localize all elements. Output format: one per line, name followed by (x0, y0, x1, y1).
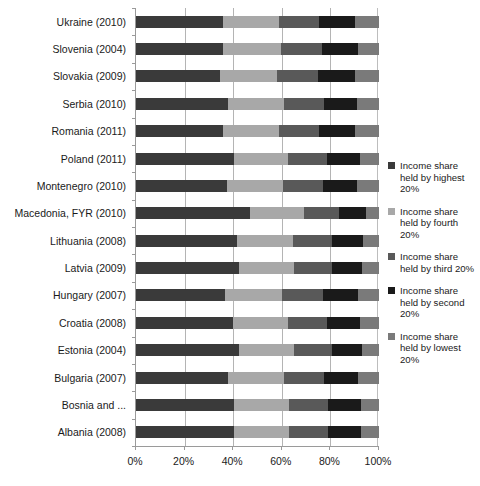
bar-segment (234, 426, 289, 438)
category-label: Slovakia (2009) (0, 71, 126, 82)
bar-segment (283, 180, 323, 192)
bar-segment (136, 16, 223, 28)
y-tick (132, 364, 136, 365)
legend-label: Income share held by third 20% (400, 251, 478, 274)
bar-segment (136, 125, 223, 137)
bar-row (136, 372, 377, 384)
bar-row (136, 399, 377, 411)
bar-segment (284, 98, 324, 110)
bar-segment (323, 180, 357, 192)
y-tick (132, 90, 136, 91)
bar-segment (136, 43, 223, 55)
bar-segment (136, 207, 250, 219)
bar-segment (234, 153, 289, 165)
bar-segment (327, 317, 360, 329)
legend-item[interactable]: Income share held by third 20% (388, 251, 478, 274)
y-tick (132, 227, 136, 228)
bar-segment (237, 235, 293, 247)
bar-segment (294, 262, 332, 274)
bar-segment (355, 70, 379, 82)
bar-segment (328, 399, 361, 411)
category-label: Poland (2011) (0, 154, 126, 165)
y-tick (132, 254, 136, 255)
y-tick (132, 8, 136, 9)
bar-segment (324, 98, 357, 110)
category-label: Albania (2008) (0, 427, 126, 438)
bar-segment (339, 207, 366, 219)
bar-segment (136, 317, 233, 329)
bar-segment (357, 180, 379, 192)
bar-segment (136, 344, 239, 356)
bar-segment (225, 289, 282, 301)
bar-row (136, 43, 377, 55)
legend-item[interactable]: Income share held by highest 20% (388, 160, 478, 195)
bar-segment (228, 98, 284, 110)
bar-row (136, 70, 377, 82)
bar-segment (136, 180, 227, 192)
bar-row (136, 426, 377, 438)
bar-segment (227, 180, 283, 192)
bar-row (136, 344, 377, 356)
y-tick (132, 419, 136, 420)
bar-segment (323, 289, 358, 301)
legend-label: Income share held by fourth 20% (400, 206, 478, 241)
legend-item[interactable]: Income share held by second 20% (388, 285, 478, 320)
bar-segment (223, 125, 279, 137)
bar-segment (277, 70, 318, 82)
category-label: Romania (2011) (0, 126, 126, 137)
bar-segment (318, 70, 354, 82)
y-tick (132, 172, 136, 173)
bar-segment (366, 207, 379, 219)
bar-segment (136, 235, 237, 247)
bar-segment (361, 399, 379, 411)
bar-segment (358, 372, 379, 384)
x-axis-line (135, 446, 378, 447)
bar-segment (288, 317, 327, 329)
bar-row (136, 207, 377, 219)
x-tick-label: 0% (113, 455, 157, 467)
legend-item[interactable]: Income share held by lowest 20% (388, 331, 478, 366)
bar-segment (233, 317, 288, 329)
category-label: Lithuania (2008) (0, 236, 126, 247)
x-tick-label: 40% (210, 455, 254, 467)
y-tick (132, 282, 136, 283)
x-tick-label: 60% (259, 455, 303, 467)
bar-segment (250, 207, 303, 219)
plot-area (135, 8, 378, 446)
bar-segment (136, 262, 239, 274)
y-tick (132, 337, 136, 338)
bar-segment (355, 16, 379, 28)
bar-segment (363, 235, 379, 247)
bar-segment (294, 344, 332, 356)
bar-row (136, 16, 377, 28)
x-tick (184, 446, 185, 450)
category-label: Slovenia (2004) (0, 44, 126, 55)
legend-swatch-icon (388, 333, 395, 340)
bar-segment (234, 399, 289, 411)
legend-label: Income share held by lowest 20% (400, 331, 478, 366)
bar-segment (293, 235, 332, 247)
bar-segment (279, 16, 319, 28)
bar-segment (304, 207, 339, 219)
bar-row (136, 317, 377, 329)
bar-segment (281, 43, 322, 55)
chart-legend: Income share held by highest 20%Income s… (388, 160, 478, 376)
bar-segment (136, 153, 234, 165)
bar-row (136, 125, 377, 137)
bar-segment (228, 372, 284, 384)
bar-segment (332, 344, 362, 356)
y-tick (132, 63, 136, 64)
legend-item[interactable]: Income share held by fourth 20% (388, 206, 478, 241)
bar-segment (239, 262, 294, 274)
y-tick (132, 309, 136, 310)
bar-segment (358, 43, 379, 55)
bar-segment (289, 399, 328, 411)
bar-segment (324, 372, 358, 384)
bar-segment (136, 372, 228, 384)
bar-segment (284, 372, 324, 384)
y-tick (132, 200, 136, 201)
bar-segment (136, 70, 220, 82)
x-tick-label: 100% (356, 455, 400, 467)
bar-segment (362, 344, 379, 356)
x-tick (281, 446, 282, 450)
